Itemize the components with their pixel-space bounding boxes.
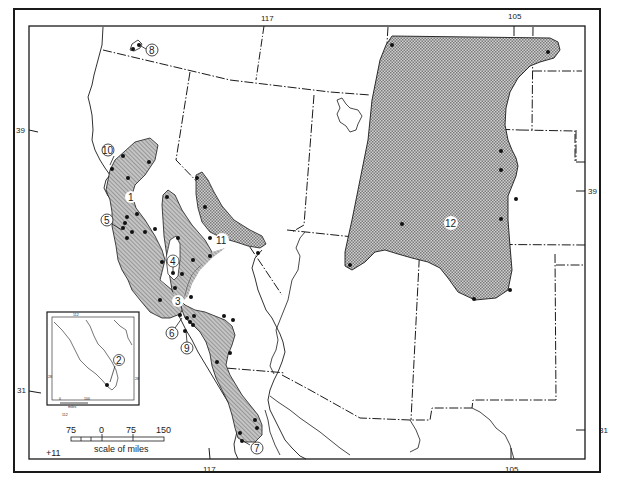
svg-text:10: 10 [102,145,114,156]
rio-grande-tx [472,408,514,459]
label-39-left: 39 [16,126,25,135]
region-label-1: 1 [125,191,137,203]
border-mexico-az [282,375,472,420]
great-salt-lake [337,98,362,132]
svg-text:miles: miles [68,405,76,409]
region-label-3: 3 [172,295,184,307]
svg-text:12: 12 [445,218,457,229]
tick-39-left [29,130,38,132]
scale-tick-150: 150 [156,425,171,435]
svg-text:11: 11 [216,235,227,246]
border-co-ks [520,130,585,162]
callout-10: 10 [102,144,114,165]
region-11-range [196,172,266,248]
svg-text:9: 9 [184,343,190,354]
label-117-bottom: 117 [203,465,216,474]
label-39-right: 39 [588,187,597,196]
callout-8: 8 [141,44,158,56]
svg-text:5: 5 [104,215,110,226]
scale-tick-75-left: 75 [66,425,76,435]
label-31-left: 31 [17,386,26,395]
svg-text:7: 7 [254,443,260,454]
svg-text:6: 6 [169,328,175,339]
callout-6: 6 [166,318,182,339]
scale-tick-0: 0 [99,425,104,435]
scale-caption: scale of miles [94,444,149,454]
callout-7: 7 [243,441,263,454]
region-baja-range [180,300,262,442]
scale-tick-75: 75 [126,425,136,435]
svg-text:2: 2 [116,355,122,366]
sonora-river [270,396,350,455]
label-105-top: 105 [508,12,522,21]
svg-text:112: 112 [62,413,68,417]
svg-text:28: 28 [48,375,52,379]
svg-text:1: 1 [128,192,134,203]
tick-117-bottom [209,448,210,459]
svg-text:3: 3 [175,296,181,307]
region-12-range [345,36,560,300]
svg-text:8: 8 [149,45,155,56]
colorado-river [270,232,305,374]
label-31-right: 31 [599,426,608,435]
inset-map: 2 112 112 28 28 0 100 miles [47,312,139,417]
sonora-river-2 [265,410,280,455]
distribution-map: 117 105 39 31 39 31 117 105 [0,0,626,488]
border-nv-ut [292,95,314,232]
svg-text:28: 28 [135,377,139,381]
author-signature: +11 [46,448,61,458]
scale-bar: 75 0 75 150 scale of miles [66,425,171,454]
svg-text:0: 0 [59,397,61,401]
svg-text:4: 4 [170,256,176,267]
border-oregon [103,50,370,95]
callout-9: 9 [181,331,193,354]
svg-text:100: 100 [84,397,90,401]
label-117-top: 117 [261,14,274,23]
label-105-bottom: 105 [505,465,519,474]
rio-grande [410,420,420,452]
border-az-nm [411,244,420,420]
region-label-11: 11 [215,233,229,247]
sonora-coastline [260,224,300,242]
svg-text:112: 112 [73,313,79,317]
tick-117-top [256,26,264,80]
tick-31-left [29,391,41,393]
region-label-12: 12 [444,216,458,230]
